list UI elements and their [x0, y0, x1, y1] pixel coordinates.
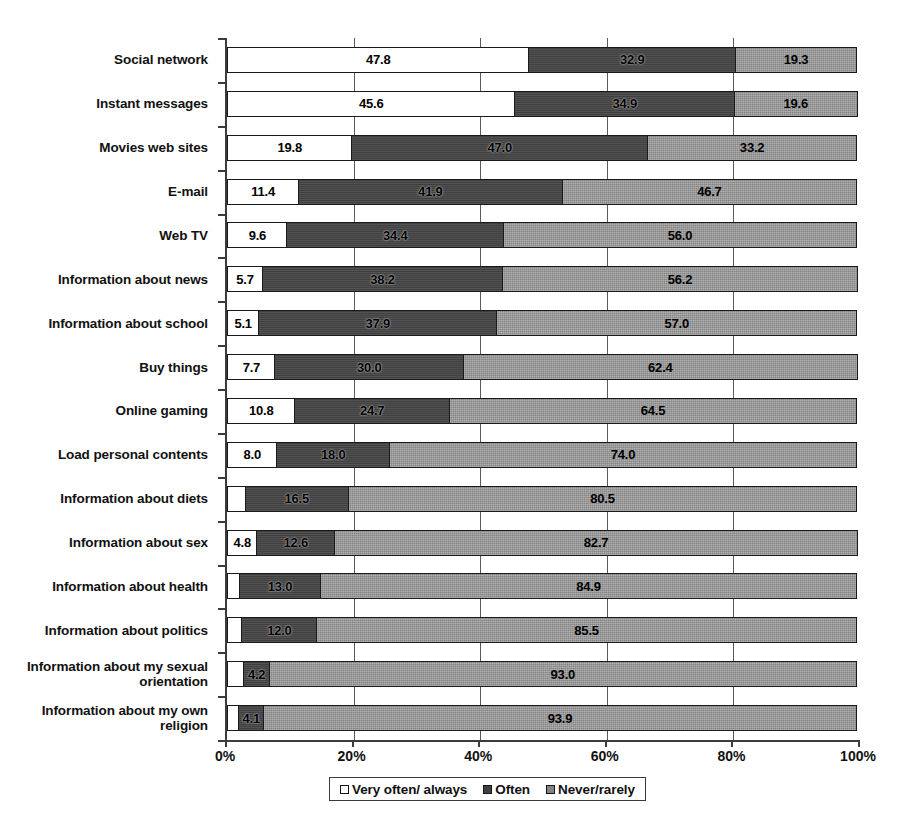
bar-rows: 47.832.919.345.634.919.619.847.033.211.4…	[227, 38, 860, 740]
bar-segment: 33.2	[647, 135, 857, 161]
bar-segment: 34.9	[514, 91, 735, 117]
x-axis-tick	[731, 740, 733, 747]
bar-row: 5.738.256.2	[227, 266, 860, 292]
legend-swatch-icon	[340, 785, 349, 794]
category-label: Information about diets	[0, 491, 208, 506]
category-label: Information about news	[0, 272, 208, 287]
bar-segment: 62.4	[463, 354, 858, 380]
category-label: Online gaming	[0, 403, 208, 418]
bar-value-label: 5.1	[234, 317, 251, 330]
bar-value-label: 7.7	[243, 361, 260, 374]
bar-segment	[227, 661, 245, 687]
bar-segment: 80.5	[348, 486, 858, 512]
category-label: Web TV	[0, 228, 208, 243]
bar-value-label: 4.1	[242, 712, 259, 725]
bar-value-label: 13.0	[268, 580, 293, 593]
bar-value-label: 4.2	[248, 668, 265, 681]
category-label: Instant messages	[0, 96, 208, 111]
y-axis-tick	[218, 740, 225, 742]
bar-value-label: 12.6	[284, 536, 309, 549]
bar-row: 19.847.033.2	[227, 135, 860, 161]
y-axis-tick	[218, 126, 225, 128]
bar-row: 4.193.9	[227, 705, 860, 731]
bar-segment: 46.7	[562, 179, 858, 205]
category-label: Information about my sexual orientation	[0, 659, 208, 689]
category-label: Load personal contents	[0, 447, 208, 462]
bar-segment: 4.1	[238, 705, 264, 731]
bar-row: 45.634.919.6	[227, 91, 860, 117]
bar-segment: 45.6	[227, 91, 516, 117]
bar-segment: 5.7	[227, 266, 263, 292]
bar-row: 11.441.946.7	[227, 179, 860, 205]
chart-legend: Very often/ alwaysOftenNever/rarely	[329, 777, 646, 801]
bar-value-label: 62.4	[648, 361, 673, 374]
bar-value-label: 12.0	[267, 624, 292, 637]
bar-segment: 56.0	[503, 222, 857, 248]
bar-value-label: 34.9	[612, 97, 637, 110]
bar-row: 16.580.5	[227, 486, 860, 512]
x-axis-tick	[478, 740, 480, 747]
bar-segment: 41.9	[298, 179, 563, 205]
x-axis-ticks	[225, 740, 858, 748]
legend-swatch-icon	[546, 785, 555, 794]
x-axis-tick-labels: 0%20%40%60%80%100%	[225, 748, 858, 768]
bar-value-label: 34.4	[383, 229, 408, 242]
bar-value-label: 84.9	[576, 580, 601, 593]
legend-item: Often	[483, 782, 530, 797]
bar-segment: 8.0	[227, 442, 278, 468]
bar-segment	[227, 486, 246, 512]
legend-label: Often	[495, 782, 530, 797]
bar-row: 7.730.062.4	[227, 354, 860, 380]
bar-segment: 16.5	[245, 486, 349, 512]
y-axis-tick	[218, 521, 225, 523]
legend-item: Never/rarely	[546, 782, 635, 797]
plot-area: 47.832.919.345.634.919.619.847.033.211.4…	[225, 38, 860, 742]
bar-segment: 9.6	[227, 222, 288, 248]
bar-value-label: 56.2	[668, 273, 693, 286]
x-axis-tick-label: 20%	[338, 748, 366, 764]
x-axis-tick-label: 80%	[717, 748, 745, 764]
x-axis-tick	[858, 740, 860, 747]
bar-value-label: 57.0	[665, 317, 690, 330]
bar-row: 9.634.456.0	[227, 222, 860, 248]
bar-segment: 11.4	[227, 179, 299, 205]
y-axis-tick	[218, 433, 225, 435]
bar-row: 10.824.764.5	[227, 398, 860, 424]
bar-row: 4.812.682.7	[227, 530, 860, 556]
bar-row: 47.832.919.3	[227, 47, 860, 73]
bar-segment: 18.0	[276, 442, 390, 468]
category-axis-labels: Social networkInstant messagesMovies web…	[0, 38, 218, 740]
bar-value-label: 4.8	[233, 536, 250, 549]
legend-label: Never/rarely	[558, 782, 635, 797]
category-label: Information about sex	[0, 535, 208, 550]
bar-segment: 12.0	[241, 617, 317, 643]
bar-value-label: 85.5	[574, 624, 599, 637]
bar-segment: 19.3	[735, 47, 857, 73]
stacked-bar-chart: Social networkInstant messagesMovies web…	[0, 0, 910, 830]
y-axis-tick	[218, 170, 225, 172]
bar-segment: 24.7	[294, 398, 450, 424]
y-axis-tick	[218, 696, 225, 698]
category-label: Information about politics	[0, 623, 208, 638]
category-label: Information about my own religion	[0, 703, 208, 733]
category-label: Information about school	[0, 316, 208, 331]
bar-segment: 56.2	[502, 266, 858, 292]
x-axis-tick	[225, 740, 227, 747]
y-axis-tick	[218, 477, 225, 479]
bar-value-label: 64.5	[641, 404, 666, 417]
y-axis-tick	[218, 345, 225, 347]
category-label: Social network	[0, 52, 208, 67]
bar-segment: 64.5	[449, 398, 857, 424]
bar-value-label: 19.8	[277, 141, 302, 154]
bar-value-label: 56.0	[668, 229, 693, 242]
bar-segment: 74.0	[389, 442, 857, 468]
bar-value-label: 11.4	[251, 185, 275, 198]
bar-value-label: 32.9	[620, 53, 645, 66]
bar-segment: 19.8	[227, 135, 352, 161]
legend-swatch-icon	[483, 785, 492, 794]
y-axis-tick	[218, 214, 225, 216]
category-label: E-mail	[0, 184, 208, 199]
bar-value-label: 46.7	[697, 185, 722, 198]
bar-segment: 19.6	[734, 91, 858, 117]
bar-value-label: 80.5	[590, 492, 615, 505]
